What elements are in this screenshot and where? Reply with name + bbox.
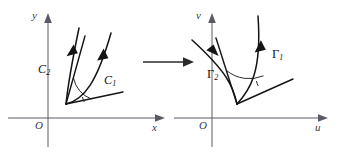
curve-gamma1-arrowhead xyxy=(255,40,266,52)
curve-label-c2-text: C xyxy=(38,62,46,76)
left-plane-svg xyxy=(0,0,172,157)
curve-label-c1-sub: 1 xyxy=(112,79,116,88)
angle-arc-right-small xyxy=(256,81,258,86)
curve-c1-arrowhead xyxy=(97,49,108,61)
x-axis xyxy=(8,114,165,122)
curve-label-gamma1: Γ1 xyxy=(272,48,283,62)
right-coordinate-plane: v u O Γ2 Γ1 xyxy=(172,0,344,157)
u-axis xyxy=(174,114,328,122)
curve-c1 xyxy=(66,33,111,104)
tangent-gamma1 xyxy=(237,79,293,104)
curve-label-c2-sub: 2 xyxy=(46,68,50,77)
curve-label-gamma1-sub: 1 xyxy=(279,53,283,62)
curve-label-c2: C2 xyxy=(38,63,50,77)
origin-label-right: O xyxy=(199,120,207,131)
figure-canvas: y x O C2 C1 xyxy=(0,0,344,157)
curve-label-c1-text: C xyxy=(104,73,112,87)
curve-c2-arrowhead xyxy=(67,45,78,57)
y-axis-label: y xyxy=(32,10,37,21)
curve-gamma1 xyxy=(237,16,259,104)
angle-arc-right xyxy=(227,71,264,79)
curve-label-c1: C1 xyxy=(104,74,116,88)
u-axis-label: u xyxy=(315,122,321,133)
v-axis-label: v xyxy=(196,10,201,21)
curve-label-gamma2: Γ2 xyxy=(207,68,218,82)
origin-label-left: O xyxy=(35,120,43,131)
tangent-c1 xyxy=(66,92,123,104)
left-coordinate-plane: y x O C2 C1 xyxy=(0,0,172,157)
right-plane-svg xyxy=(172,0,344,157)
curve-label-gamma2-sub: 2 xyxy=(214,73,218,82)
y-axis xyxy=(44,13,52,147)
x-axis-label: x xyxy=(152,122,157,133)
